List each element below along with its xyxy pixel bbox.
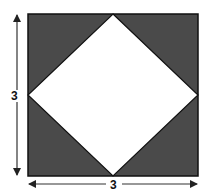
horizontal-side-label: 3 xyxy=(110,178,117,192)
vertical-side-label: 3 xyxy=(11,89,18,103)
square-diamond-diagram: 3 3 xyxy=(0,0,212,196)
